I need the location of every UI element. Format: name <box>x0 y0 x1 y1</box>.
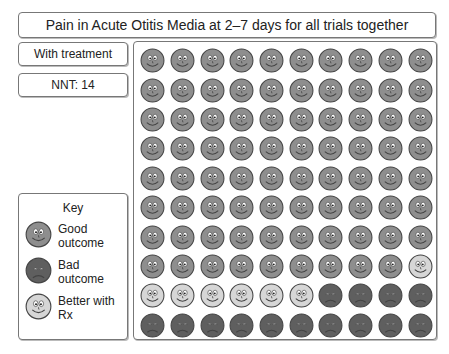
legend-label: Better with Rx <box>58 294 127 322</box>
good-face-icon <box>138 164 168 193</box>
good-face-icon <box>227 134 257 163</box>
good-face-icon <box>286 193 316 222</box>
better-face-icon <box>257 281 287 310</box>
good-face-icon <box>346 46 376 75</box>
bad-face-icon <box>376 281 406 310</box>
good-face-icon <box>227 193 257 222</box>
good-face-icon <box>316 193 346 222</box>
chart-title: Pain in Acute Otitis Media at 2–7 days f… <box>18 12 436 38</box>
good-face-icon <box>405 75 435 104</box>
good-face-icon <box>168 252 198 281</box>
better-face-icon <box>197 281 227 310</box>
good-face-icon <box>227 252 257 281</box>
bad-face-icon <box>138 311 168 340</box>
good-face-icon <box>257 164 287 193</box>
good-face-icon <box>286 164 316 193</box>
good-face-icon <box>316 46 346 75</box>
good-face-icon <box>227 222 257 251</box>
bad-face-icon <box>227 311 257 340</box>
good-face-icon <box>286 105 316 134</box>
good-face-icon <box>405 105 435 134</box>
good-face-icon <box>405 222 435 251</box>
good-face-icon <box>257 105 287 134</box>
good-face-icon <box>168 134 198 163</box>
treatment-label: With treatment <box>18 42 128 66</box>
good-face-icon <box>316 252 346 281</box>
better-face-icon <box>138 281 168 310</box>
good-face-icon <box>376 164 406 193</box>
good-face-icon <box>138 222 168 251</box>
good-face-icon <box>227 46 257 75</box>
good-face-icon <box>257 134 287 163</box>
good-face-icon <box>316 164 346 193</box>
good-face-icon <box>227 105 257 134</box>
good-face-icon <box>346 105 376 134</box>
better-face-icon <box>405 252 435 281</box>
good-face-icon <box>257 75 287 104</box>
good-face-icon <box>197 252 227 281</box>
good-face-icon <box>197 193 227 222</box>
good-face-icon <box>168 222 198 251</box>
good-face-icon <box>197 46 227 75</box>
good-face-icon <box>376 105 406 134</box>
good-face-icon <box>197 164 227 193</box>
face-grid <box>138 46 434 340</box>
good-face-icon <box>257 46 287 75</box>
better-face-icon <box>227 281 257 310</box>
good-face-icon <box>286 75 316 104</box>
bad-face-icon <box>286 311 316 340</box>
good-face-icon <box>376 134 406 163</box>
good-face-icon <box>346 134 376 163</box>
bad-face-icon <box>405 311 435 340</box>
bad-face-icon <box>376 311 406 340</box>
good-face-icon <box>346 164 376 193</box>
good-face-icon <box>346 222 376 251</box>
legend-item-good: Good outcome <box>25 221 127 251</box>
better-face-icon <box>25 293 58 323</box>
good-face-icon <box>25 221 58 251</box>
legend-label: Bad outcome <box>58 258 127 286</box>
bad-face-icon <box>316 311 346 340</box>
bad-face-icon <box>168 311 198 340</box>
legend: Key Good outcome Bad outcome Better with… <box>18 193 128 340</box>
good-face-icon <box>376 222 406 251</box>
legend-label: Good outcome <box>58 222 127 250</box>
bad-face-icon <box>346 311 376 340</box>
better-face-icon <box>286 281 316 310</box>
good-face-icon <box>168 46 198 75</box>
good-face-icon <box>316 105 346 134</box>
good-face-icon <box>346 252 376 281</box>
good-face-icon <box>257 193 287 222</box>
legend-item-bad: Bad outcome <box>25 257 127 287</box>
good-face-icon <box>405 193 435 222</box>
good-face-icon <box>227 164 257 193</box>
good-face-icon <box>376 252 406 281</box>
legend-item-better: Better with Rx <box>25 293 127 323</box>
good-face-icon <box>168 75 198 104</box>
nnt-label: NNT: 14 <box>18 73 128 97</box>
good-face-icon <box>257 222 287 251</box>
good-face-icon <box>286 222 316 251</box>
better-face-icon <box>168 281 198 310</box>
good-face-icon <box>138 105 168 134</box>
good-face-icon <box>227 75 257 104</box>
legend-title: Key <box>19 201 127 215</box>
bad-face-icon <box>25 257 58 287</box>
good-face-icon <box>168 105 198 134</box>
good-face-icon <box>346 75 376 104</box>
good-face-icon <box>138 252 168 281</box>
bad-face-icon <box>405 281 435 310</box>
good-face-icon <box>316 134 346 163</box>
good-face-icon <box>168 193 198 222</box>
good-face-icon <box>346 193 376 222</box>
good-face-icon <box>138 193 168 222</box>
bad-face-icon <box>257 311 287 340</box>
bad-face-icon <box>197 311 227 340</box>
good-face-icon <box>376 46 406 75</box>
good-face-icon <box>197 222 227 251</box>
good-face-icon <box>197 134 227 163</box>
good-face-icon <box>286 252 316 281</box>
good-face-icon <box>168 164 198 193</box>
outcome-grid <box>133 41 437 340</box>
good-face-icon <box>405 46 435 75</box>
